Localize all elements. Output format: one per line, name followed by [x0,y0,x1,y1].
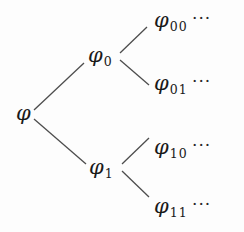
node-root: φ [16,103,31,124]
node-phi-10-subscript: 10 [170,146,188,161]
node-phi-1: φ1 [89,157,113,178]
node-phi-11-ellipsis: ··· [192,194,211,214]
node-phi-00-symbol: φ [154,8,169,32]
node-phi-1-symbol: φ [89,155,104,179]
node-phi-11-symbol: φ [154,194,169,218]
node-phi-01: φ01··· [154,73,206,94]
edge-root-to-1 [34,119,86,164]
node-phi-10: φ10··· [154,137,206,158]
binary-tree-figure: φ φ0 φ1 φ00··· φ01··· φ10··· φ11··· [0,0,244,232]
edge-n0-to-01 [120,60,149,85]
node-phi-00-ellipsis: ··· [192,8,211,28]
edge-n1-to-10 [122,138,149,164]
node-phi-11-subscript: 11 [170,205,188,220]
node-phi-0: φ0 [88,45,112,66]
node-phi-00-subscript: 00 [170,19,188,34]
edge-n1-to-11 [122,171,149,197]
node-phi-10-ellipsis: ··· [192,135,211,155]
node-phi-00: φ00··· [154,10,206,31]
node-phi-01-symbol: φ [154,71,169,95]
node-phi-01-ellipsis: ··· [192,71,211,91]
node-phi-11: φ11··· [154,196,206,217]
edge-n0-to-00 [120,27,147,53]
node-root-symbol: φ [16,101,31,125]
edge-root-to-0 [34,63,84,110]
node-phi-1-subscript: 1 [105,166,114,181]
node-phi-0-subscript: 0 [104,54,113,69]
node-phi-0-symbol: φ [88,43,103,67]
node-phi-01-subscript: 01 [170,82,188,97]
node-phi-10-symbol: φ [154,135,169,159]
